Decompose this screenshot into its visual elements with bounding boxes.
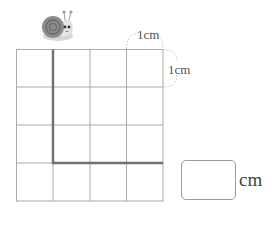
grid-lines	[17, 50, 164, 202]
side-unit-label: 1cm	[168, 63, 190, 76]
top-unit-label: 1cm	[137, 28, 159, 41]
answer-input-box[interactable]	[181, 160, 236, 200]
answer-unit: cm	[239, 170, 262, 189]
snail-path	[53, 50, 163, 164]
